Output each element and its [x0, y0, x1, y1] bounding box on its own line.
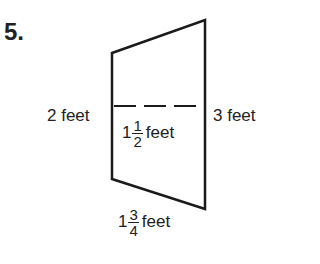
- midline-fraction: 12: [132, 118, 142, 149]
- bottom-label: 134feet: [118, 207, 170, 238]
- right-side-label: 3 feet: [213, 106, 256, 126]
- midline-numerator: 1: [132, 118, 142, 134]
- bottom-fraction: 34: [128, 207, 138, 238]
- left-side-label: 2 feet: [47, 106, 90, 126]
- midline-whole: 1: [122, 123, 131, 142]
- bottom-numerator: 3: [128, 207, 138, 223]
- midline-denominator: 2: [132, 134, 142, 149]
- midline-unit: feet: [146, 123, 174, 142]
- trapezoid-outline: [112, 20, 205, 209]
- bottom-whole: 1: [118, 212, 127, 231]
- bottom-denominator: 4: [128, 223, 138, 238]
- midline-label: 112feet: [122, 118, 174, 149]
- bottom-unit: feet: [142, 212, 170, 231]
